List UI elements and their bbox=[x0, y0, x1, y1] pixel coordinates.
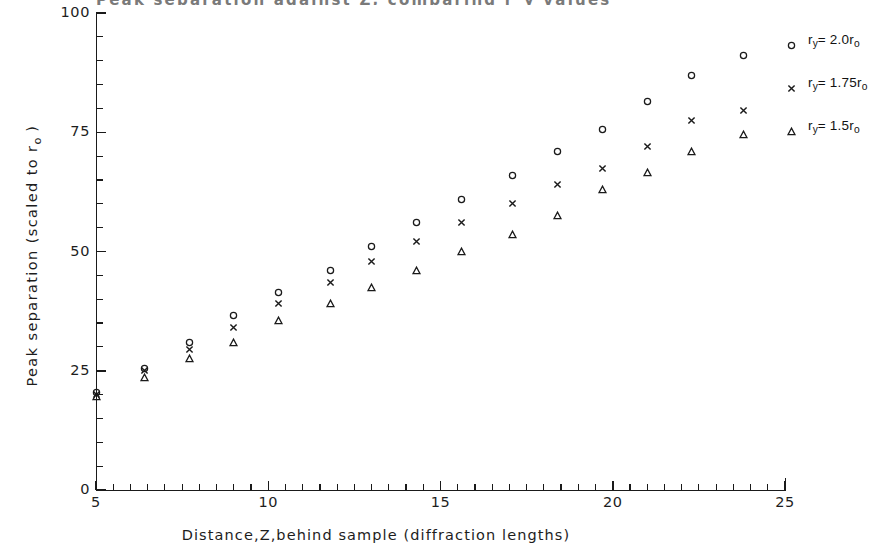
legend-marker-open-circle-icon bbox=[786, 36, 798, 48]
data-point-open-triangle bbox=[507, 229, 518, 240]
data-point-open-circle bbox=[597, 124, 608, 135]
legend-label: ry= 1.5ro bbox=[808, 118, 860, 135]
x-tick-major bbox=[268, 481, 269, 490]
legend-value: = 2.0r bbox=[818, 32, 854, 47]
data-point-open-triangle bbox=[139, 372, 150, 383]
data-point-open-circle bbox=[273, 287, 284, 298]
y-tick-minor bbox=[97, 179, 103, 180]
y-tick-label: 75 bbox=[44, 123, 90, 139]
y-tick-major bbox=[97, 489, 106, 490]
y-tick-major bbox=[97, 132, 106, 133]
y-tick-minor bbox=[97, 84, 103, 85]
y-axis-title-text: Peak separation (scaled to r bbox=[24, 145, 40, 387]
x-tick-minor bbox=[337, 484, 338, 490]
data-point-cross bbox=[411, 236, 422, 247]
data-point-cross bbox=[642, 141, 653, 152]
x-tick-minor bbox=[182, 484, 183, 490]
legend-marker-open-triangle-icon bbox=[786, 122, 798, 134]
data-point-open-triangle bbox=[456, 246, 467, 257]
x-tick-minor bbox=[405, 484, 406, 490]
y-tick-minor bbox=[97, 275, 103, 276]
y-tick-minor bbox=[97, 156, 103, 157]
x-tick-label: 5 bbox=[73, 494, 119, 510]
data-point-open-circle bbox=[366, 241, 377, 252]
x-axis-title: Distance,Z,behind sample (diffraction le… bbox=[96, 527, 656, 543]
x-tick-minor bbox=[423, 484, 424, 490]
x-tick-minor bbox=[302, 484, 303, 490]
data-point-open-triangle bbox=[228, 337, 239, 348]
x-tick-minor bbox=[319, 484, 320, 490]
legend-entry[interactable]: ry= 2.0ro bbox=[786, 32, 887, 50]
data-point-cross bbox=[366, 256, 377, 267]
legend-label: ry= 1.75ro bbox=[808, 75, 867, 92]
x-tick-minor bbox=[233, 484, 234, 490]
x-tick-minor bbox=[457, 484, 458, 490]
legend-entry[interactable]: ry= 1.75ro bbox=[786, 75, 887, 93]
data-point-cross bbox=[273, 298, 284, 309]
x-tick-major bbox=[612, 481, 613, 490]
legend-value: = 1.75r bbox=[818, 75, 862, 90]
x-tick-major bbox=[784, 481, 785, 490]
y-tick-major bbox=[97, 12, 106, 13]
x-tick-minor bbox=[526, 484, 527, 490]
x-tick-minor bbox=[371, 484, 372, 490]
data-point-open-triangle bbox=[642, 167, 653, 178]
data-point-open-triangle bbox=[738, 129, 749, 140]
y-tick-minor bbox=[97, 418, 103, 419]
x-tick-minor bbox=[629, 484, 630, 490]
x-tick-minor bbox=[113, 484, 114, 490]
data-point-open-triangle bbox=[686, 146, 697, 157]
y-tick-label: 25 bbox=[44, 362, 90, 378]
data-point-open-triangle bbox=[184, 353, 195, 364]
x-tick-minor bbox=[681, 484, 682, 490]
x-tick-minor bbox=[767, 484, 768, 490]
legend-entry[interactable]: ry= 1.5ro bbox=[786, 118, 887, 136]
x-tick-minor bbox=[250, 484, 251, 490]
scatter-plot-figure: Peak separation against Z, comparing r_y… bbox=[0, 0, 887, 560]
data-point-open-triangle bbox=[325, 298, 336, 309]
data-point-cross bbox=[456, 217, 467, 228]
data-point-open-triangle bbox=[366, 282, 377, 293]
legend-label: ry= 2.0ro bbox=[808, 32, 860, 49]
data-point-open-circle bbox=[642, 96, 653, 107]
y-tick-label: 50 bbox=[44, 243, 90, 259]
x-tick-minor bbox=[509, 484, 510, 490]
data-point-open-triangle bbox=[411, 265, 422, 276]
data-point-cross bbox=[552, 179, 563, 190]
y-tick-minor bbox=[97, 299, 103, 300]
data-point-open-circle bbox=[507, 170, 518, 181]
data-point-open-triangle bbox=[273, 315, 284, 326]
data-point-open-circle bbox=[552, 146, 563, 157]
data-point-open-triangle bbox=[552, 210, 563, 221]
y-tick-minor bbox=[97, 346, 103, 347]
x-tick-minor bbox=[199, 484, 200, 490]
y-axis-title: Peak separation (scaled to ro ) bbox=[24, 86, 43, 426]
data-point-cross bbox=[738, 105, 749, 116]
data-point-open-triangle bbox=[597, 184, 608, 195]
x-tick-minor bbox=[716, 484, 717, 490]
data-point-open-circle bbox=[228, 310, 239, 321]
x-tick-minor bbox=[354, 484, 355, 490]
y-tick-minor bbox=[97, 108, 103, 109]
x-tick-major bbox=[440, 481, 441, 490]
x-tick-minor bbox=[595, 484, 596, 490]
data-point-open-triangle bbox=[91, 391, 102, 402]
x-tick-minor bbox=[216, 484, 217, 490]
x-tick-minor bbox=[474, 484, 475, 490]
x-tick-label: 25 bbox=[762, 494, 808, 510]
x-tick-major bbox=[95, 481, 96, 490]
data-point-open-circle bbox=[738, 50, 749, 61]
x-tick-minor bbox=[164, 484, 165, 490]
data-point-cross bbox=[507, 198, 518, 209]
x-tick-label: 20 bbox=[590, 494, 636, 510]
y-tick-major bbox=[97, 251, 106, 252]
x-tick-minor bbox=[147, 484, 148, 490]
x-axis-line bbox=[96, 490, 786, 491]
x-tick-minor bbox=[560, 484, 561, 490]
x-tick-minor bbox=[750, 484, 751, 490]
y-tick-minor bbox=[97, 60, 103, 61]
data-point-cross bbox=[597, 163, 608, 174]
x-tick-minor bbox=[130, 484, 131, 490]
y-tick-major bbox=[97, 370, 106, 371]
x-tick-minor bbox=[733, 484, 734, 490]
